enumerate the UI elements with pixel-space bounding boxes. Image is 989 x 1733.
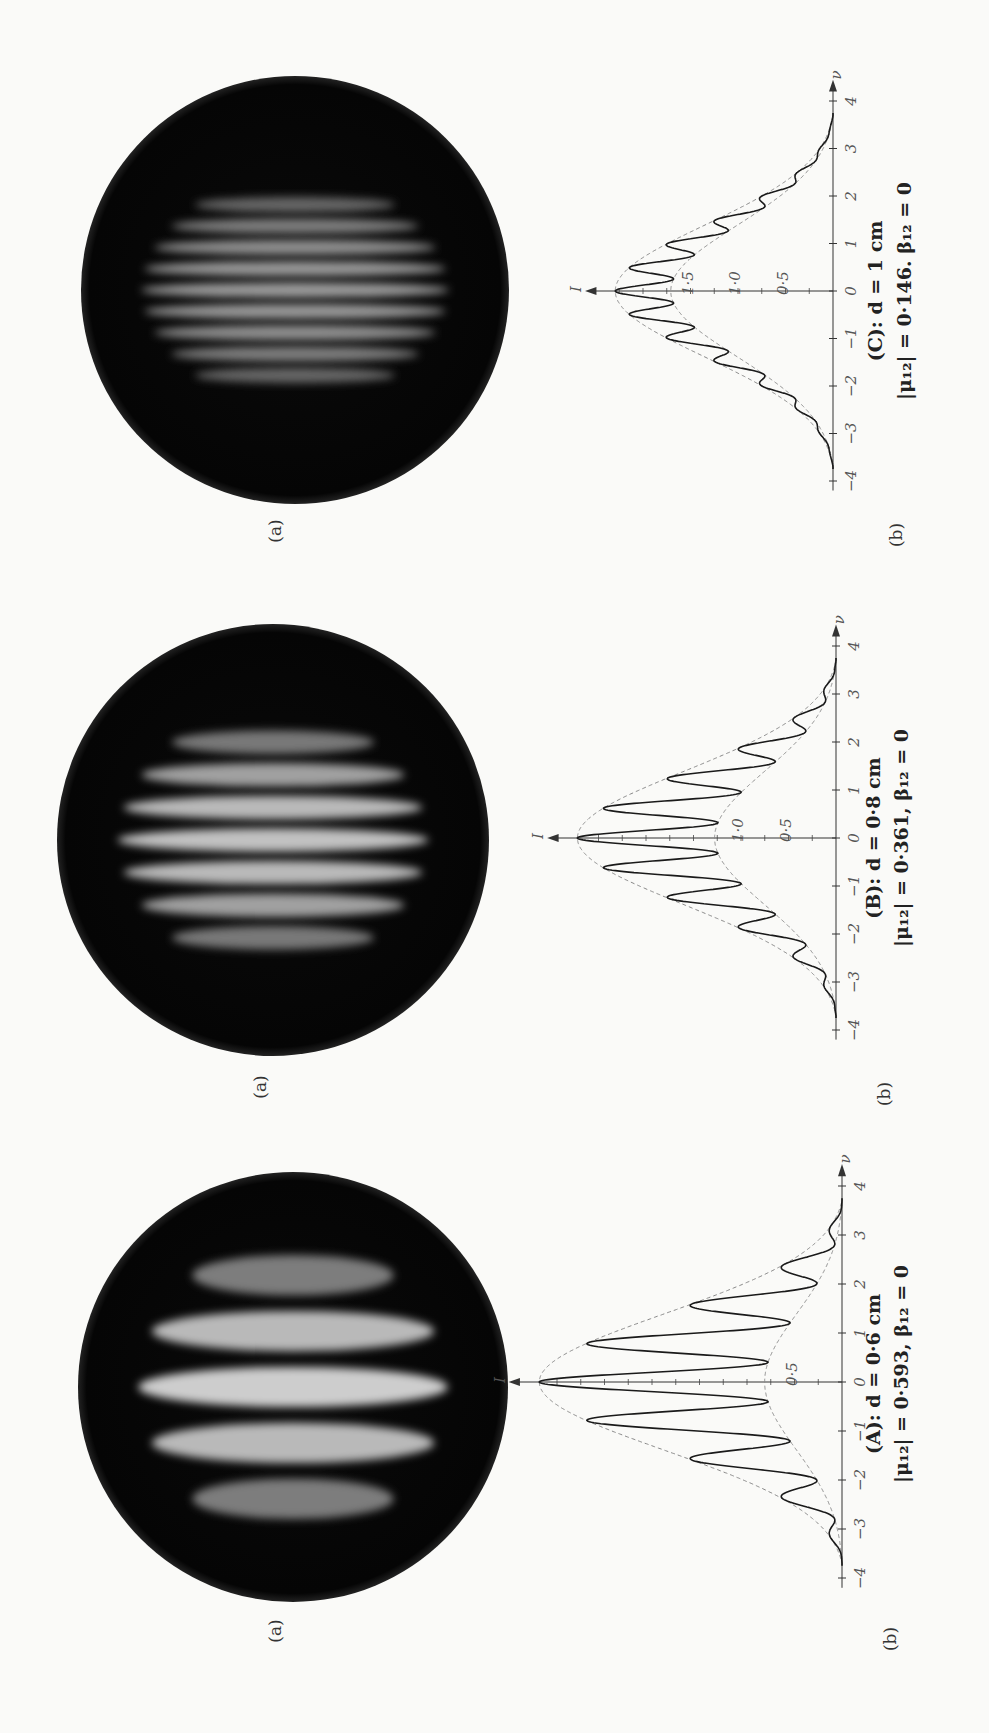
i-axis-arrow-icon (547, 834, 558, 842)
nu-tick-label: 3 (851, 1230, 869, 1240)
nu-axis-arrow-icon (838, 1164, 846, 1176)
i-tick-label: 0·5 (777, 818, 795, 842)
bright-fringe (154, 240, 435, 255)
intensity-plot: Iν−4−3−2−1012340·51·01·5 (567, 70, 860, 492)
bright-fringe (138, 1367, 448, 1407)
photo-label: (a) (250, 1075, 270, 1098)
i-tick-label: 0·5 (783, 1362, 801, 1386)
i-axis-label: I (529, 832, 547, 840)
bright-fringe (154, 325, 435, 340)
nu-tick-label: 4 (842, 96, 860, 107)
i-tick-label: 1·0 (726, 271, 744, 295)
nu-tick-label: 2 (851, 1279, 869, 1290)
figure-canvas: (a)Iν−4−3−2−1012340·51·01·5(b)(C): d = 1… (0, 0, 989, 1733)
panel-C: (a)Iν−4−3−2−1012340·51·01·5(b)(C): d = 1… (81, 70, 916, 547)
i-axis-label: I (491, 1376, 509, 1384)
nu-axis-label: ν (836, 1154, 854, 1163)
i-tick-label: 1·5 (679, 271, 697, 295)
caption-line-2: |μ₁₂| = 0·361, β₁₂ = 0 (890, 729, 913, 947)
bright-fringe (124, 861, 423, 884)
bright-fringe (195, 197, 395, 212)
fringe-photo (57, 624, 489, 1056)
nu-tick-label: −2 (845, 923, 863, 945)
bright-fringe (171, 346, 419, 361)
nu-tick-label: 3 (842, 144, 860, 154)
bright-fringe (171, 218, 419, 233)
i-axis-label: I (567, 285, 585, 293)
fringe-photo (78, 1172, 508, 1602)
i-axis-arrow-icon (509, 1378, 520, 1386)
nu-axis-label: ν (830, 615, 848, 624)
nu-tick-label: −1 (842, 327, 860, 349)
caption-line-2: |μ₁₂| = 0·593, β₁₂ = 0 (890, 1265, 913, 1483)
plot-label: (b) (874, 1082, 894, 1106)
nu-tick-label: 4 (851, 1181, 869, 1192)
plot-label: (b) (886, 523, 906, 547)
bright-fringe (172, 926, 374, 949)
plot-label: (b) (880, 1627, 900, 1651)
bright-fringe (195, 368, 395, 383)
bright-fringe (152, 1423, 435, 1463)
i-tick-label: 1·0 (729, 818, 747, 842)
bright-fringe (124, 796, 423, 819)
nu-tick-label: −3 (842, 422, 860, 444)
photo-label: (a) (265, 1619, 285, 1642)
nu-axis-label: ν (827, 70, 845, 79)
bright-fringe (172, 731, 374, 754)
fringe-photo (81, 76, 509, 504)
bright-fringe (142, 893, 405, 916)
bright-fringe (152, 1311, 435, 1351)
bright-fringe (144, 304, 445, 319)
nu-tick-label: −4 (845, 1019, 863, 1041)
nu-tick-label: −1 (845, 875, 863, 897)
panel-B: (a)Iν−4−3−2−1012340·51·0(b)(B): d = 0·8 … (57, 615, 913, 1106)
i-axis-arrow-icon (585, 287, 596, 295)
nu-tick-label: −4 (842, 470, 860, 492)
caption-line-1: (A): d = 0·6 cm (862, 1294, 884, 1454)
nu-tick-label: 2 (842, 191, 860, 202)
nu-tick-label: 0 (842, 286, 860, 296)
nu-tick-label: 3 (845, 689, 863, 699)
nu-axis-arrow-icon (832, 624, 840, 636)
bright-fringe (117, 828, 428, 851)
intensity-plot: Iν−4−3−2−1012340·5 (491, 1154, 869, 1589)
bright-fringe (144, 261, 445, 276)
nu-tick-label: −4 (851, 1567, 869, 1589)
bright-fringe (141, 282, 449, 297)
nu-axis-arrow-icon (829, 80, 837, 92)
nu-tick-label: −2 (851, 1469, 869, 1491)
caption-line-1: (C): d = 1 cm (864, 221, 886, 362)
nu-tick-label: −3 (851, 1518, 869, 1540)
caption-line-1: (B): d = 0·8 cm (862, 757, 884, 918)
intensity-plot: Iν−4−3−2−1012340·51·0 (529, 615, 863, 1041)
nu-tick-label: 1 (842, 239, 860, 249)
i-tick-label: 0·5 (774, 271, 792, 295)
nu-tick-label: −3 (845, 971, 863, 993)
nu-tick-label: 2 (845, 737, 863, 748)
nu-tick-label: −2 (842, 375, 860, 397)
photo-label: (a) (265, 519, 285, 542)
nu-tick-label: 1 (845, 785, 863, 795)
panel-A: (a)Iν−4−3−2−1012340·5(b)(A): d = 0·6 cm|… (78, 1154, 913, 1651)
bright-fringe (192, 1479, 393, 1519)
nu-tick-label: 0 (845, 833, 863, 843)
nu-tick-label: 4 (845, 641, 863, 652)
bright-fringe (142, 763, 405, 786)
bright-fringe (192, 1255, 393, 1295)
caption-line-2: |μ₁₂| = 0·146. β₁₂ = 0 (893, 182, 916, 400)
